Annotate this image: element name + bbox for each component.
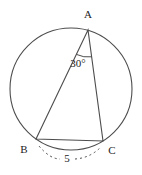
vertex-label-b: B	[20, 143, 27, 155]
vertex-label-c: C	[108, 144, 115, 156]
geometry-figure-page: A B C 30° 5	[0, 0, 142, 175]
angle-measure-label: 30°	[70, 57, 85, 69]
circle-triangle-diagram: A B C 30° 5	[0, 0, 142, 175]
side-length-label: 5	[64, 152, 70, 164]
vertex-label-a: A	[84, 8, 92, 20]
